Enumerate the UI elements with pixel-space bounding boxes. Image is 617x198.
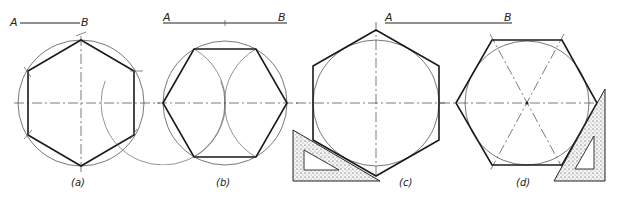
label-a: A xyxy=(384,11,393,24)
segment-ab-b: A B xyxy=(162,11,287,26)
label-a: A xyxy=(162,11,171,24)
caption-d: (d) xyxy=(516,177,530,188)
label-a: A xyxy=(9,16,18,29)
caption-c: (c) xyxy=(399,177,412,188)
caption-a: (a) xyxy=(71,177,85,188)
label-b: B xyxy=(504,11,512,24)
set-square-30-60 xyxy=(293,130,380,181)
segment-ab-a: A B xyxy=(9,16,89,29)
label-b: B xyxy=(81,16,89,29)
segment-ab-c: A B xyxy=(384,11,512,24)
figure-c: A B (c) xyxy=(293,11,512,188)
figure-a: A B (a) xyxy=(9,16,160,188)
figure-b: A B (b) xyxy=(101,11,300,188)
caption-b: (b) xyxy=(216,177,230,188)
hexagon-construction-diagram: A B (a) A B (b) A xyxy=(0,0,617,198)
figure-d: (d) xyxy=(440,34,605,188)
label-b: B xyxy=(278,11,286,24)
